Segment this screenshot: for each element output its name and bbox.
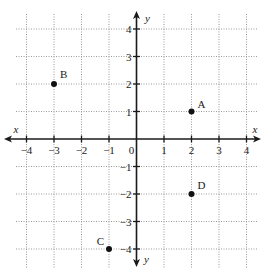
x-tick-label: 1 xyxy=(161,144,167,156)
coordinate-plane: xxyy −4−3−2−1012344321−1−2−3−4 ABCD xyxy=(0,0,266,278)
x-tick-label: −3 xyxy=(48,144,60,156)
point-d-marker xyxy=(189,191,195,197)
y-tick-label: −4 xyxy=(120,243,132,255)
x-axis-label-left: x xyxy=(13,123,19,135)
x-tick-label: 4 xyxy=(244,144,250,156)
x-tick-label: 0 xyxy=(129,144,135,156)
point-a-label: A xyxy=(198,98,206,110)
y-tick-label: −2 xyxy=(120,188,132,200)
x-axis-label-right: x xyxy=(252,123,258,135)
axes: xxyy xyxy=(4,11,261,267)
x-tick-label: −4 xyxy=(21,144,33,156)
point-d-label: D xyxy=(198,179,206,191)
point-b-marker xyxy=(51,81,57,87)
y-tick-label: −3 xyxy=(120,216,132,228)
point-c-marker xyxy=(106,246,112,252)
point-c-label: C xyxy=(97,235,104,247)
y-axis-label-bottom: y xyxy=(143,253,149,265)
x-tick-label: 3 xyxy=(216,144,222,156)
y-tick-label: 2 xyxy=(126,78,132,90)
y-tick-label: 3 xyxy=(126,51,132,63)
point-b-label: B xyxy=(60,68,67,80)
x-tick-label: −1 xyxy=(103,144,115,156)
x-tick-label: −2 xyxy=(76,144,88,156)
y-tick-label: 4 xyxy=(126,23,132,35)
point-a-marker xyxy=(189,109,195,115)
y-tick-label: 1 xyxy=(126,106,132,118)
x-tick-label: 2 xyxy=(189,144,195,156)
y-tick-label: −1 xyxy=(120,161,132,173)
y-axis-label-top: y xyxy=(144,12,150,24)
